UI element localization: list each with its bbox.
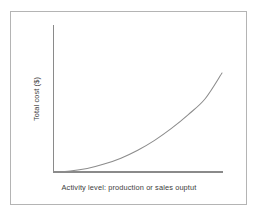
total-cost-curve bbox=[54, 73, 223, 172]
y-axis-label: Total cost ($) bbox=[32, 77, 41, 121]
x-axis-label: Activity level: production or sales oupt… bbox=[62, 183, 197, 192]
cost-behavior-chart: Activity level: production or sales oupt… bbox=[0, 0, 258, 217]
figure-root: Activity level: production or sales oupt… bbox=[0, 0, 258, 217]
